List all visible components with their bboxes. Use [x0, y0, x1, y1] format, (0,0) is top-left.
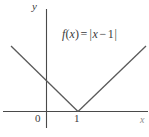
equation-minus-sign: − — [99, 27, 106, 41]
function-equation-label: f(x)=|x−1| — [62, 28, 117, 40]
math-figure: y x 0 1 f(x)=|x−1| — [0, 0, 149, 137]
function-curve-right-branch — [78, 46, 146, 112]
x-tick-label-0: 0 — [35, 113, 41, 124]
equation-inner-variable: x — [92, 27, 97, 41]
equation-equals-sign: = — [81, 27, 88, 41]
y-axis-label: y — [32, 1, 37, 12]
function-curve-left-branch — [11, 46, 78, 112]
equation-abs-bar-close: | — [114, 27, 118, 41]
x-axis-label: x — [140, 115, 144, 125]
equation-close-paren: ) — [75, 27, 79, 41]
equation-constant: 1 — [108, 27, 114, 41]
x-tick-label-1: 1 — [74, 113, 80, 124]
